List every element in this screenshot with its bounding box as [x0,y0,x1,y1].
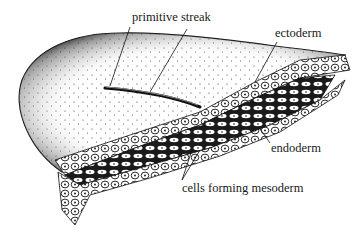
label-primitive-streak: primitive streak [132,11,211,24]
label-endoderm: endoderm [271,142,321,155]
label-cells-forming-mesoderm: cells forming mesoderm [182,182,304,195]
label-ectoderm: ectoderm [275,27,322,40]
